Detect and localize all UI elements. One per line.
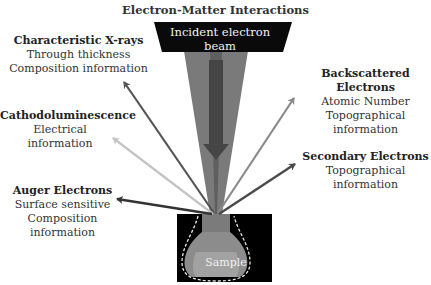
cathodoluminescence-arrow — [113, 138, 213, 214]
label-cathodoluminescence: Cathodoluminescence Electrical informati… — [0, 109, 120, 151]
label-line: Through thickness — [6, 48, 151, 62]
label-secondary-electrons: Secondary Electrons Topographical inform… — [300, 150, 431, 192]
label-line: Composition information — [6, 62, 151, 76]
label-characteristic-xrays: Characteristic X-rays Through thickness … — [6, 34, 151, 76]
label-auger-electrons: Auger Electrons Surface sensitive Compos… — [0, 184, 125, 240]
incident-beam-label: Incident electron beam — [158, 25, 282, 53]
label-heading: Backscattered Electrons — [300, 67, 431, 95]
sample-label: Sample — [196, 256, 256, 269]
label-line: Electrical information — [0, 123, 120, 151]
label-line: Atomic Number — [300, 95, 431, 109]
label-line: Surface sensitive — [0, 198, 125, 212]
label-heading: Characteristic X-rays — [6, 34, 151, 48]
label-line: Composition information — [0, 212, 125, 240]
label-heading: Secondary Electrons — [300, 150, 431, 164]
secondary-arrow — [219, 164, 295, 214]
label-backscattered-electrons: Backscattered Electrons Atomic Number To… — [300, 67, 431, 137]
label-line: Topographical information — [300, 109, 431, 137]
label-line: Topographical information — [300, 164, 431, 192]
label-heading: Cathodoluminescence — [0, 109, 120, 123]
label-heading: Auger Electrons — [0, 184, 125, 198]
